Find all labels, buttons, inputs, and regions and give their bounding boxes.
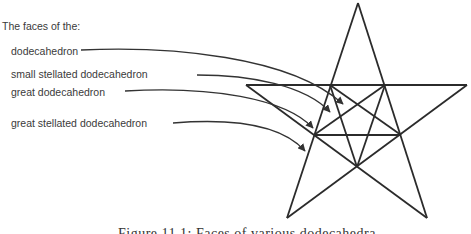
inner-star-edge-2 (357, 85, 385, 167)
inner-star-edge-4 (330, 85, 401, 135)
inner-star-edge-3 (314, 85, 385, 135)
arrow-great-stellated-dodecahedron (173, 122, 305, 151)
figure-caption: Figure 11.1: Faces of various dodecahedr… (118, 226, 376, 234)
star-edge-right-to-bottom-left (287, 85, 467, 218)
pentagram-diagram (0, 0, 471, 234)
star-edge-apex-right (358, 3, 427, 218)
arrow-dodecahedron (81, 49, 343, 104)
